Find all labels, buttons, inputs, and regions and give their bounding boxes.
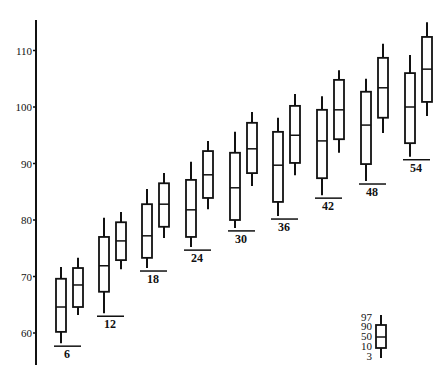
y-tick-label: 110: [16, 45, 33, 57]
age-label: 18: [147, 272, 159, 286]
box-second: [159, 173, 169, 238]
box-first: [317, 96, 327, 195]
box-body: [186, 180, 196, 237]
box-body: [405, 73, 415, 143]
box-body: [317, 110, 327, 178]
box-second: [247, 112, 257, 186]
y-axis-ticks: 60708090100110: [16, 45, 37, 340]
box-first: [230, 132, 240, 228]
box-first: [99, 218, 109, 313]
age-label: 30: [235, 232, 247, 246]
age-label: 42: [322, 199, 334, 213]
box-plot-chart: 60708090100110 61218243036424854 9790501…: [0, 0, 448, 383]
box-second: [116, 212, 126, 269]
box-first: [186, 162, 196, 247]
y-tick-label: 100: [16, 101, 33, 113]
box-first: [405, 55, 415, 157]
age-group-54: 54: [403, 22, 432, 174]
age-label: 48: [366, 185, 378, 199]
box-first: [273, 118, 283, 216]
box-body: [99, 237, 109, 292]
box-body: [273, 132, 283, 202]
box-body: [73, 268, 83, 307]
box-second: [378, 44, 388, 133]
age-group-36: 36: [271, 94, 300, 234]
age-label: 54: [410, 161, 422, 175]
box-body: [159, 183, 169, 227]
box-first: [56, 267, 66, 343]
box-body: [230, 153, 240, 220]
age-group-48: 48: [359, 44, 388, 199]
y-tick-label: 70: [21, 271, 33, 283]
box-body: [56, 279, 66, 332]
age-label: 24: [191, 251, 203, 265]
box-body: [361, 92, 371, 164]
age-label: 36: [278, 220, 290, 234]
age-group-24: 24: [184, 141, 213, 265]
legend-label-3: 3: [367, 350, 373, 362]
box-second: [73, 258, 83, 315]
box-second: [334, 70, 344, 152]
y-tick-label: 90: [21, 158, 33, 170]
age-group-30: 30: [228, 112, 257, 246]
box-first: [142, 189, 152, 268]
legend: 979050103: [361, 311, 386, 362]
age-label: 12: [104, 317, 116, 331]
age-group-18: 18: [140, 173, 169, 286]
box-body: [290, 106, 300, 163]
box-body: [142, 204, 152, 258]
box-second: [290, 94, 300, 175]
box-first: [361, 79, 371, 181]
age-label: 6: [64, 347, 70, 361]
box-second: [203, 141, 213, 209]
box-groups: 61218243036424854: [54, 22, 432, 361]
y-tick-label: 60: [21, 327, 33, 339]
box-body: [247, 123, 257, 173]
age-group-6: 6: [54, 258, 83, 361]
y-tick-label: 80: [21, 214, 33, 226]
age-group-42: 42: [315, 70, 344, 213]
age-group-12: 12: [97, 212, 126, 331]
box-second: [422, 22, 432, 116]
